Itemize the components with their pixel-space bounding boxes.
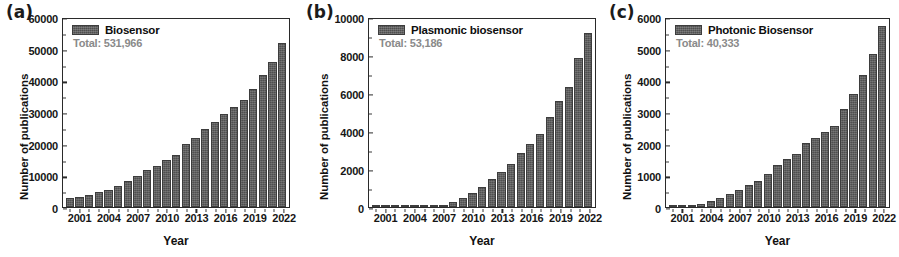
y-axis-minor-tick [63, 66, 66, 67]
x-axis-minor-tick [274, 209, 275, 212]
y-axis-tick-mark [63, 18, 67, 19]
y-axis-tick-mark [63, 82, 67, 83]
x-axis-tick-label: 2022 [272, 212, 296, 224]
x-axis-minor-tick [215, 209, 216, 212]
x-axis-minor-tick [245, 209, 246, 212]
bar [546, 117, 554, 207]
x-axis-minor-tick [874, 209, 875, 212]
x-axis-minor-tick [845, 209, 846, 212]
panel-b-legend: Plasmonic biosensor Total: 53,186 [378, 24, 523, 49]
x-axis-tick-label: 2010 [757, 212, 781, 224]
x-axis-minor-tick [206, 209, 207, 212]
y-axis-tick-mark [666, 208, 670, 209]
x-axis-minor-tick [395, 209, 396, 212]
x-axis-minor-tick [492, 209, 493, 212]
x-axis-minor-tick [453, 209, 454, 212]
x-axis-tick-mark [196, 209, 197, 213]
bar [726, 194, 734, 207]
bar [381, 205, 389, 207]
bar [764, 174, 772, 207]
x-axis-tick-label: 2007 [728, 212, 752, 224]
x-axis-tick-mark [826, 209, 827, 213]
bar [830, 126, 838, 207]
x-axis-tick-label: 2019 [549, 212, 573, 224]
x-axis-tick-label: 2004 [403, 212, 427, 224]
panel-b-plot-area: Plasmonic biosensor Total: 53,186 020004… [368, 18, 596, 208]
x-axis-tick-label: 2016 [520, 212, 544, 224]
x-axis-tick-mark [855, 209, 856, 213]
bar [95, 192, 103, 207]
bar [669, 205, 677, 207]
y-axis-tick-mark [369, 94, 373, 95]
x-axis-minor-tick [118, 209, 119, 212]
bar [259, 75, 267, 207]
x-axis-tick-mark [414, 209, 415, 213]
bar [85, 195, 93, 207]
y-axis-tick-mark [369, 208, 373, 209]
y-axis-tick-mark [63, 50, 67, 51]
y-axis-minor-tick [63, 34, 66, 35]
bar [201, 129, 209, 207]
x-axis-tick-label: 2013 [786, 212, 810, 224]
y-axis-tick-label: 10000 [334, 13, 369, 25]
x-axis-tick-mark [768, 209, 769, 213]
panel-a-legend-swatch [72, 25, 99, 35]
y-axis-tick-mark [63, 208, 67, 209]
y-axis-tick-mark [666, 113, 670, 114]
y-axis-minor-tick [369, 152, 372, 153]
x-axis-minor-tick [720, 209, 721, 212]
bar [114, 186, 122, 207]
x-axis-tick-mark [137, 209, 138, 213]
bar [783, 159, 791, 207]
x-axis-tick-label: 2022 [872, 212, 896, 224]
y-axis-tick-label: 40000 [28, 76, 63, 88]
bar [792, 154, 800, 207]
bar [697, 204, 705, 207]
y-axis-tick-mark [666, 177, 670, 178]
x-axis-tick-label: 2013 [185, 212, 209, 224]
x-axis-tick-label: 2001 [374, 212, 398, 224]
bar [574, 58, 582, 207]
x-axis-tick-label: 2010 [461, 212, 485, 224]
bar [391, 205, 399, 207]
bar [584, 33, 592, 207]
x-axis-tick-mark [560, 209, 561, 213]
panel-c-legend-label: Photonic Biosensor [708, 24, 813, 36]
y-axis-tick-label: 6000 [637, 13, 666, 25]
bar [707, 201, 715, 207]
x-axis-minor-tick [463, 209, 464, 212]
bar [430, 205, 438, 207]
panel-c-legend-row: Photonic Biosensor [675, 24, 813, 36]
x-axis-minor-tick [692, 209, 693, 212]
y-axis-tick-label: 5000 [637, 45, 666, 57]
bar [526, 144, 534, 207]
bar [240, 100, 248, 207]
x-axis-tick-mark [108, 209, 109, 213]
panel-a-legend-label: Biosensor [105, 24, 159, 36]
y-axis-tick-label: 4000 [637, 76, 666, 88]
y-axis-minor-tick [666, 161, 669, 162]
x-axis-tick-mark [225, 209, 226, 213]
y-axis-tick-label: 0 [52, 203, 63, 215]
panel-c-legend-swatch [675, 25, 702, 35]
x-axis-minor-tick [816, 209, 817, 212]
x-axis-minor-tick [580, 209, 581, 212]
bar [565, 87, 573, 207]
bar [745, 185, 753, 207]
y-axis-minor-tick [666, 34, 669, 35]
x-axis-minor-tick [99, 209, 100, 212]
bar [497, 172, 505, 207]
x-axis-tick-label: 2016 [815, 212, 839, 224]
x-axis-minor-tick [541, 209, 542, 212]
y-axis-minor-tick [369, 76, 372, 77]
x-axis-minor-tick [405, 209, 406, 212]
bar [459, 198, 467, 207]
bar [162, 160, 170, 207]
bar [75, 197, 83, 207]
x-axis-minor-tick [235, 209, 236, 212]
panel-b-total-label: Total: 53,186 [379, 37, 442, 49]
y-axis-tick-mark [63, 145, 67, 146]
panel-b-legend-swatch [378, 25, 405, 35]
y-axis-minor-tick [63, 98, 66, 99]
bar [859, 75, 867, 207]
